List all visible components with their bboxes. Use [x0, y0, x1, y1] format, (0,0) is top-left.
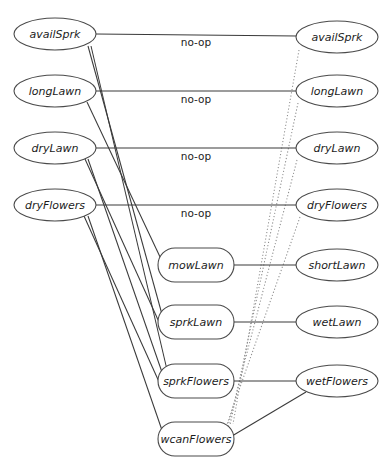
node-label-wcanFlowers: wcanFlowers: [161, 433, 232, 446]
edge-dotted-longLawn_r-to-wcanFlowers: [230, 103, 298, 425]
edge-label-no-op-3: no-op: [181, 207, 212, 219]
edge-label-no-op-0: no-op: [181, 36, 212, 48]
node-wcanFlowers[interactable]: wcanFlowers: [158, 422, 234, 456]
edge-label-no-op-1: no-op: [181, 93, 212, 105]
node-label-sprkLawn: sprkLawn: [170, 316, 222, 329]
node-label-shortLawn: shortLawn: [308, 259, 365, 272]
node-longLawn_l[interactable]: longLawn: [14, 75, 96, 107]
dotted-edges-layer: [226, 50, 300, 427]
edge-dotted-dryLawn_r-to-wcanFlowers: [228, 160, 297, 426]
edge-solid-wcanFlowers-to-wetFlowers: [232, 392, 306, 436]
node-label-dryLawn_l: dryLawn: [32, 142, 79, 155]
node-label-longLawn_l: longLawn: [29, 85, 82, 98]
node-availSprk_l[interactable]: availSprk: [14, 18, 96, 50]
nodes-layer: availSprklongLawndryLawndryFlowersmowLaw…: [14, 18, 378, 456]
edge-labels-layer: no-opno-opno-opno-op: [181, 36, 212, 219]
node-longLawn_r[interactable]: longLawn: [296, 75, 378, 107]
node-sprkLawn[interactable]: sprkLawn: [158, 305, 234, 339]
node-sprkFlowers[interactable]: sprkFlowers: [158, 364, 234, 398]
node-dryFlowers_l[interactable]: dryFlowers: [14, 189, 96, 221]
edge-solid-longLawn_l-to-mowLawn: [87, 102, 161, 259]
node-wetFlowers[interactable]: wetFlowers: [296, 365, 378, 397]
node-availSprk_r[interactable]: availSprk: [296, 21, 378, 53]
node-wetLawn[interactable]: wetLawn: [296, 306, 378, 338]
node-label-availSprk_l: availSprk: [30, 28, 82, 41]
node-label-wetFlowers: wetFlowers: [306, 375, 368, 388]
node-dryLawn_r[interactable]: dryLawn: [296, 132, 378, 164]
edge-solid-dryLawn_l-to-sprkFlowers: [88, 159, 164, 378]
node-label-mowLawn: mowLawn: [168, 259, 223, 272]
node-dryLawn_l[interactable]: dryLawn: [14, 132, 96, 164]
node-mowLawn[interactable]: mowLawn: [158, 248, 234, 282]
node-label-wetLawn: wetLawn: [313, 316, 362, 329]
edge-solid-availSprk_l-to-sprkLawn: [88, 46, 163, 318]
node-label-sprkFlowers: sprkFlowers: [163, 375, 229, 388]
node-shortLawn[interactable]: shortLawn: [296, 249, 378, 281]
edge-label-no-op-2: no-op: [181, 150, 212, 162]
graph-svg: no-opno-opno-opno-op availSprklongLawndr…: [0, 0, 387, 471]
node-label-availSprk_r: availSprk: [312, 31, 364, 44]
node-label-longLawn_r: longLawn: [311, 85, 364, 98]
edge-solid-availSprk_l-to-sprkFlowers: [91, 46, 168, 374]
diagram-canvas: no-opno-opno-opno-op availSprklongLawndr…: [0, 0, 387, 471]
node-dryFlowers_r[interactable]: dryFlowers: [296, 189, 378, 221]
node-label-dryFlowers_l: dryFlowers: [25, 199, 85, 212]
node-label-dryLawn_r: dryLawn: [314, 142, 361, 155]
node-label-dryFlowers_r: dryFlowers: [307, 199, 367, 212]
